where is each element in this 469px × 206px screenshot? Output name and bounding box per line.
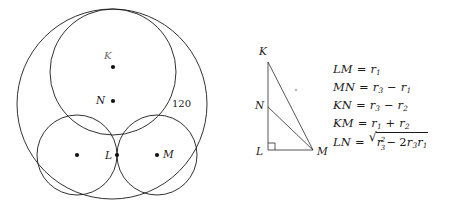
minus-sign-icon: − [387,80,397,94]
equation-LM-rhs: r1 [370,62,380,76]
point-K-dot [111,65,115,69]
right-angle-marker-L [268,143,275,150]
point-L-dot [115,153,119,157]
equation-LN: LN = √r23−2r3r1 [333,132,469,150]
equation-KN-rhs: r3 − r2 [370,98,408,112]
r3-squared: r23 [377,135,383,149]
label-vertex-K: K [259,46,267,57]
radical-expression: √r23−2r3r1 [369,132,428,155]
triangle-diagram-group [268,62,313,150]
minus-sign-icon: − [384,98,394,112]
annotation-120: 120 [172,99,191,109]
coefficient-2: 2 [399,135,407,149]
equation-KN-lhs: KN [333,98,352,112]
minus-sign-icon: − [386,135,396,149]
label-point-M-circle: M [163,149,174,160]
point-left-center-dot [75,153,79,157]
radicand: r23−2r3r1 [376,132,428,155]
point-N-dot [111,99,115,103]
equation-LN-lhs: LN [333,135,351,149]
plus-sign-icon: + [386,116,396,130]
label-vertex-L: L [256,146,263,157]
geometry-figure: K N L M 120 K N L M LM = r1 MN = r3 − r1… [0,0,469,206]
label-point-K-circle: K [104,51,111,61]
equation-MN-lhs: MN [333,80,355,94]
equation-LM-lhs: LM [333,62,353,76]
label-point-L-circle: L [105,150,112,161]
radical-sign-icon: √ [369,131,377,144]
equation-MN: MN = r3 − r1 [333,78,469,96]
label-vertex-M: M [317,146,328,157]
equation-LN-operator: = [355,135,365,149]
equation-list: LM = r1 MN = r3 − r1 KN = r3 − r2 KM = r… [333,60,469,150]
equation-KM-operator: = [358,116,368,130]
stray-dot [295,89,298,92]
equation-LM: LM = r1 [333,60,469,78]
equation-KN: KN = r3 − r2 [333,96,469,114]
equation-KM: KM = r1 + r2 [333,114,469,132]
equation-MN-rhs: r3 − r1 [373,80,411,94]
point-M-dot [155,153,159,157]
equation-KM-rhs: r1 + r2 [371,116,409,130]
label-point-N-circle: N [96,95,105,106]
equation-MN-operator: = [359,80,369,94]
label-vertex-N: N [255,100,264,111]
segment-KM [268,62,313,150]
equation-KM-lhs: KM [333,116,354,130]
equation-LM-operator: = [357,62,367,76]
equation-KN-operator: = [356,98,366,112]
